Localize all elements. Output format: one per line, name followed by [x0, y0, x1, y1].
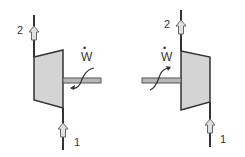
right-shaft	[142, 78, 181, 83]
right-device	[142, 10, 215, 147]
left-outlet-label: 2	[17, 25, 23, 36]
left-inlet-arrow-icon	[58, 123, 68, 137]
left-work-label: W	[81, 51, 92, 63]
right-inlet-arrow-icon	[205, 119, 215, 133]
left-work-arrowhead-icon	[70, 85, 75, 90]
left-device-body	[34, 50, 63, 108]
right-outlet-arrow-icon	[176, 20, 186, 34]
right-device-body	[181, 51, 210, 110]
right-outlet-label: 2	[164, 19, 170, 30]
right-inlet-label: 1	[220, 134, 226, 145]
diagram-canvas	[0, 0, 245, 157]
right-work-label: W	[161, 51, 172, 63]
left-inlet-label: 1	[74, 137, 80, 148]
left-outlet-arrow-icon	[29, 26, 39, 40]
left-device	[29, 15, 101, 150]
